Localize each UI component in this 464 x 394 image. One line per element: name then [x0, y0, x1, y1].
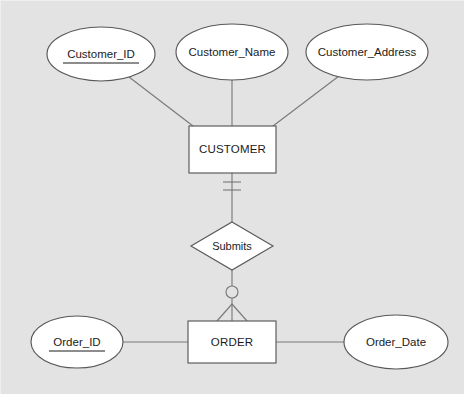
attribute-customer-address[interactable]: Customer_Address: [306, 24, 428, 80]
attribute-label: Customer_ID: [67, 48, 135, 60]
attribute-label: Customer_Address: [318, 46, 417, 58]
crowsfoot-right-prong: [232, 304, 247, 321]
cardinality-optional-circle: [226, 286, 238, 298]
entity-customer[interactable]: CUSTOMER: [189, 126, 276, 173]
entity-label: ORDER: [211, 336, 254, 348]
entity-order[interactable]: ORDER: [188, 321, 276, 363]
connector-customer-id-to-customer: [129, 77, 193, 126]
attribute-label: Order_Date: [366, 336, 426, 348]
er-diagram-canvas: Customer_ID Customer_Name Customer_Addre…: [0, 0, 464, 394]
attribute-customer-name[interactable]: Customer_Name: [176, 24, 288, 80]
connector-customer-address-to-customer: [273, 76, 339, 126]
attribute-customer-id[interactable]: Customer_ID: [47, 27, 155, 81]
attribute-order-id[interactable]: Order_ID: [31, 316, 123, 368]
relationship-label: Submits: [212, 240, 252, 252]
relationship-submits[interactable]: Submits: [191, 222, 273, 270]
entity-label: CUSTOMER: [199, 143, 266, 155]
attribute-label: Customer_Name: [189, 46, 276, 58]
attribute-label: Order_ID: [53, 336, 100, 348]
connector-lines: [123, 76, 344, 342]
er-diagram-svg: Customer_ID Customer_Name Customer_Addre…: [1, 1, 464, 394]
crowsfoot-left-prong: [217, 304, 232, 321]
attribute-order-date[interactable]: Order_Date: [344, 315, 448, 369]
